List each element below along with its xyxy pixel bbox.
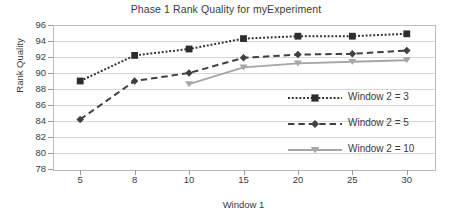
chart-title: Phase 1 Rank Quality for myExperiment [0, 3, 452, 15]
y-tick-label: 86 [24, 100, 46, 110]
y-tick-mark [48, 25, 53, 26]
legend-label: Window 2 = 10 [348, 143, 414, 154]
x-tick-mark [352, 170, 353, 175]
gridline [54, 41, 435, 42]
y-tick-mark [48, 57, 53, 58]
y-tick-label: 80 [24, 148, 46, 158]
y-tick-label: 78 [24, 164, 46, 174]
legend-item-3[interactable]: Window 2 = 10 [286, 140, 436, 166]
y-tick-label: 94 [24, 36, 46, 46]
legend-swatch-square [286, 88, 344, 108]
x-tick-label: 15 [224, 174, 264, 185]
y-tick-label: 82 [24, 132, 46, 142]
x-tick-mark [80, 170, 81, 175]
x-tick-mark [135, 170, 136, 175]
chart-container: Phase 1 Rank Quality for myExperiment Ra… [0, 0, 452, 221]
x-tick-label: 20 [278, 174, 318, 185]
y-tick-mark [48, 153, 53, 154]
legend-swatch-triangle [286, 140, 344, 160]
y-tick-mark [48, 169, 53, 170]
x-tick-label: 5 [60, 174, 100, 185]
x-tick-label: 30 [387, 174, 427, 185]
gridline [54, 73, 435, 74]
chart-legend: Window 2 = 3Window 2 = 5Window 2 = 10 [286, 88, 436, 166]
x-axis-title: Window 1 [53, 199, 434, 210]
y-axis-title: Rank Quality [14, 11, 25, 121]
x-tick-mark [407, 170, 408, 175]
x-tick-mark [298, 170, 299, 175]
y-tick-mark [48, 105, 53, 106]
y-tick-label: 84 [24, 116, 46, 126]
legend-label: Window 2 = 5 [348, 117, 409, 128]
x-tick-label: 10 [169, 174, 209, 185]
y-tick-label: 92 [24, 52, 46, 62]
y-tick-label: 88 [24, 84, 46, 94]
x-tick-mark [189, 170, 190, 175]
legend-swatch-diamond [286, 114, 344, 134]
gridline [54, 57, 435, 58]
y-tick-mark [48, 137, 53, 138]
x-tick-label: 8 [115, 174, 155, 185]
y-tick-mark [48, 41, 53, 42]
legend-item-2[interactable]: Window 2 = 5 [286, 114, 436, 140]
x-tick-mark [244, 170, 245, 175]
x-tick-label: 25 [332, 174, 372, 185]
y-tick-mark [48, 121, 53, 122]
y-tick-mark [48, 73, 53, 74]
y-tick-label: 96 [24, 20, 46, 30]
y-tick-label: 90 [24, 68, 46, 78]
y-tick-mark [48, 89, 53, 90]
legend-item-1[interactable]: Window 2 = 3 [286, 88, 436, 114]
legend-label: Window 2 = 3 [348, 91, 409, 102]
